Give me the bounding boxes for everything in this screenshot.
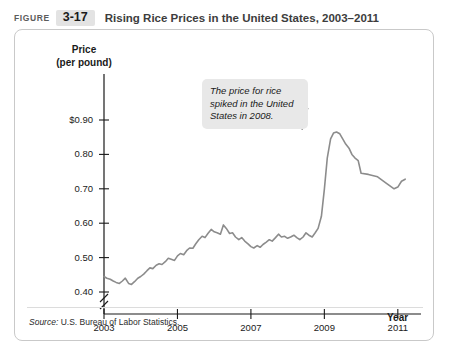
figure-title: Rising Rice Prices in the United States,… (105, 12, 379, 24)
source-text: U.S. Bureau of Labor Statistics. (61, 317, 180, 327)
plot-area: Price (per pound) Year $0.900.800.700.60… (15, 30, 435, 342)
y-axis-tick-label: 0.40 (49, 286, 93, 297)
annotation-callout: The price for rice spiked in the United … (202, 79, 308, 129)
source-note: Source: U.S. Bureau of Labor Statistics. (29, 317, 179, 327)
y-axis-title: Price (per pound) (41, 44, 127, 69)
figure-number-badge: 3-17 (56, 10, 95, 26)
figure-root: FIGURE 3-17 Rising Rice Prices in the Un… (0, 0, 463, 359)
figure-header: FIGURE 3-17 Rising Rice Prices in the Un… (14, 10, 379, 26)
figure-panel: Price (per pound) Year $0.900.800.700.60… (14, 29, 434, 341)
y-axis-title-line1: Price (41, 44, 127, 57)
y-axis-tick-label: 0.80 (49, 148, 93, 159)
price-series-line (104, 132, 405, 284)
x-axis-tick-label: 2009 (304, 322, 344, 333)
x-axis-tick-label: 2007 (231, 322, 271, 333)
source-label: Source: (29, 317, 58, 327)
y-axis-tick-label: 0.50 (49, 252, 93, 263)
source-divider (27, 307, 423, 308)
figure-word-label: FIGURE (14, 13, 50, 23)
x-axis-tick-label: 2011 (378, 322, 418, 333)
y-axis-tick-label: 0.60 (49, 217, 93, 228)
y-axis-tick-label: 0.70 (49, 183, 93, 194)
y-axis-tick-label: $0.90 (49, 114, 93, 125)
y-axis-title-line2: (per pound) (41, 57, 127, 70)
